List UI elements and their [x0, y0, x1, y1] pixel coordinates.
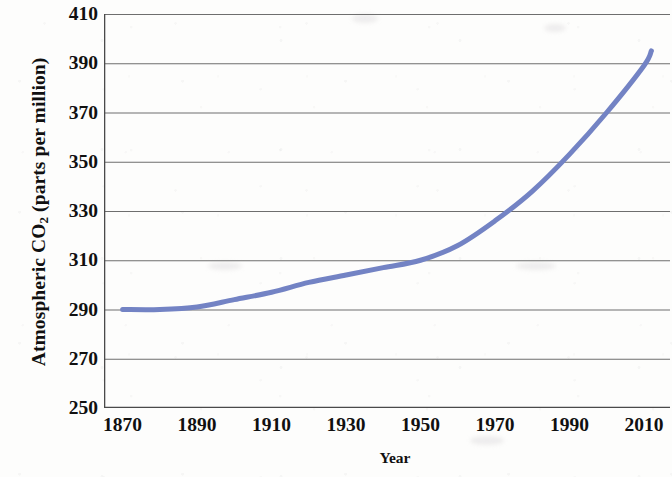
gridlines [104, 15, 670, 409]
y-axis-tick-labels: 250270290310330350370390410 [38, 0, 98, 477]
x-tick-label: 1990 [529, 414, 609, 435]
plot-area [104, 14, 670, 408]
y-tick-label: 410 [38, 4, 98, 24]
y-tick-label: 370 [38, 103, 98, 123]
x-axis-title: Year [355, 449, 435, 467]
y-tick-label: 290 [38, 300, 98, 320]
x-tick-label: 1910 [232, 414, 312, 435]
x-tick-label: 1870 [83, 414, 163, 435]
x-tick-label: 1890 [157, 414, 237, 435]
y-tick-label: 270 [38, 349, 98, 369]
y-tick-label: 350 [38, 152, 98, 172]
x-tick-label: 2010 [604, 414, 672, 435]
y-tick-label: 390 [38, 54, 98, 74]
data-series-line [123, 51, 652, 310]
x-axis-tick-labels: 18701890191019301950197019902010 [0, 414, 672, 440]
y-tick-label: 310 [38, 251, 98, 271]
x-tick-label: 1930 [306, 414, 386, 435]
co2-line-chart: Atmospheric CO2 (parts per million) 2502… [0, 0, 672, 477]
x-tick-label: 1950 [381, 414, 461, 435]
y-tick-label: 330 [38, 201, 98, 221]
x-tick-label: 1970 [455, 414, 535, 435]
